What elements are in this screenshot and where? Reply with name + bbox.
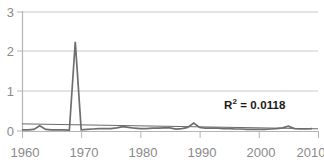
y-tick-label-1: 1: [7, 84, 14, 99]
y-tick-labels: 3 2 1 0: [7, 5, 14, 139]
y-tick-label-3: 3: [7, 5, 14, 20]
x-tick-label-2010: 2010: [297, 145, 324, 160]
y-tick-label-0: 0: [7, 124, 14, 139]
gridlines: [22, 12, 318, 91]
line-chart-plot: 3 2 1 0 1960 1970 1980 1990 2000 2010: [0, 0, 324, 164]
x-tick-label-1980: 1980: [129, 145, 158, 160]
x-tick-label-2000: 2000: [247, 145, 276, 160]
y-axis-ticks: [17, 12, 22, 131]
r-squared-annotation: R2 = 0.0118: [224, 99, 286, 111]
y-tick-label-2: 2: [7, 44, 14, 59]
chart-container: 3 2 1 0 1960 1970 1980 1990 2000 2010 R2…: [0, 0, 324, 164]
data-series-line: [22, 42, 312, 130]
x-tick-label-1970: 1970: [70, 145, 99, 160]
x-tick-label-1960: 1960: [11, 145, 40, 160]
x-tick-labels: 1960 1970 1980 1990 2000 2010: [11, 145, 324, 160]
x-tick-label-1990: 1990: [188, 145, 217, 160]
r-squared-value: = 0.0118: [237, 99, 286, 111]
